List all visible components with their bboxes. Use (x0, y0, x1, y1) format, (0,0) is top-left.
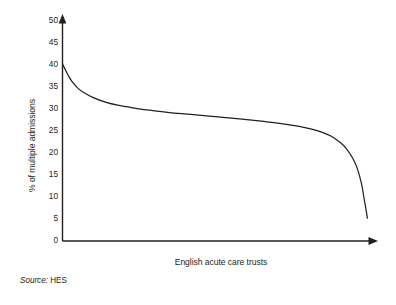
y-tick-label: 10 (42, 191, 58, 201)
x-axis-arrowhead (369, 237, 379, 245)
y-tick-label: 15 (42, 169, 58, 179)
y-tick-label: 50 (42, 15, 58, 25)
y-tick-label: 25 (42, 125, 58, 135)
source-note: Source: HES (20, 275, 67, 286)
y-tick-label: 30 (42, 103, 58, 113)
y-tick-label: 5 (42, 213, 58, 223)
chart-figure: 50 45 40 35 30 25 20 15 10 5 0 % of mult… (0, 0, 396, 305)
y-tick-label: 20 (42, 147, 58, 157)
series-line-multiple-admissions (63, 65, 368, 218)
y-tick-label: 40 (42, 59, 58, 69)
source-note-label: Source: (20, 275, 48, 285)
y-tick-label: 35 (42, 81, 58, 91)
y-axis-arrowhead (59, 14, 67, 24)
x-axis-title: English acute care trusts (154, 256, 289, 267)
y-tick-label: 45 (42, 37, 58, 47)
y-tick-label: 0 (42, 235, 58, 245)
y-axis-title: % of multiple admissions (26, 99, 37, 192)
source-note-value: HES (50, 275, 67, 285)
